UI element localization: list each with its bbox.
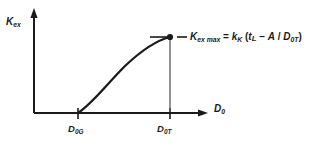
x-tick-label-dot-sub: 0T — [164, 128, 172, 135]
x-axis-label-sub: 0 — [221, 108, 225, 115]
x-axis-arrowhead — [198, 109, 208, 116]
max-value-formula: Kex max = kK (tL – A / D0T) — [190, 32, 302, 42]
x-tick-label-dog-main: D — [68, 123, 75, 134]
figure-container: Kex D0 D0G D0T Kex max = kK (tL – A / D0… — [0, 0, 313, 146]
x-tick-label-dog: D0G — [68, 124, 83, 134]
formula-close-paren: ) — [298, 31, 301, 42]
formula-minus: – — [257, 31, 268, 42]
formula-d-sub: 0T — [290, 36, 298, 43]
response-curve — [78, 37, 170, 113]
max-point-marker — [167, 34, 173, 40]
formula-equals: = — [220, 31, 231, 42]
y-axis-arrowhead — [30, 8, 37, 18]
x-tick-label-dot: D0T — [157, 124, 171, 134]
formula-slash: / — [275, 31, 283, 42]
x-tick-label-dog-sub: 0G — [75, 128, 84, 135]
x-axis-label: D0 — [214, 104, 225, 114]
formula-k-sub: K — [237, 36, 242, 43]
formula-t-sub: L — [252, 34, 257, 43]
formula-a: A — [268, 31, 275, 42]
formula-lhs-sub: ex max — [197, 36, 220, 43]
x-tick-label-dot-main: D — [157, 123, 164, 134]
y-axis-label-sub: ex — [13, 21, 21, 28]
y-axis-label: Kex — [6, 17, 21, 27]
